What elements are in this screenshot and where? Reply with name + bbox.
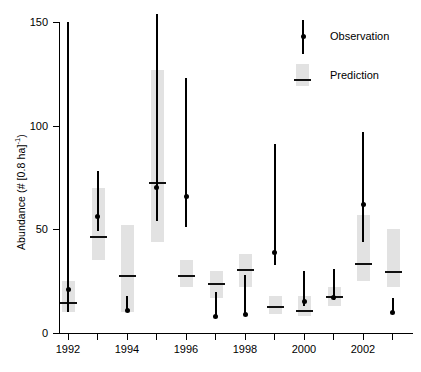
chart-legend: Observation Prediction: [280, 18, 415, 86]
observation-interval-1999: [274, 144, 276, 264]
prediction-median-1998: [237, 269, 254, 271]
prediction-box-2003: [387, 229, 400, 287]
x-tick-2000: [304, 334, 305, 340]
x-axis-line: [59, 333, 413, 334]
observation-point-1992: [66, 287, 71, 292]
y-tick-100: [53, 126, 59, 127]
x-tick-label-1992: 1992: [44, 344, 92, 355]
y-tick-50: [53, 229, 59, 230]
y-tick-label-0: 0: [18, 328, 48, 339]
observation-interval-2002: [362, 132, 364, 242]
observation-point-2000: [302, 299, 307, 304]
prediction-median-1994: [119, 275, 136, 277]
x-tick-1995: [156, 334, 157, 340]
x-tick-label-1994: 1994: [103, 344, 151, 355]
x-tick-label-2002: 2002: [339, 344, 387, 355]
y-tick-label-50: 50: [18, 224, 48, 235]
observation-point-1994: [125, 308, 130, 313]
x-tick-1994: [127, 334, 128, 340]
x-tick-1997: [215, 334, 216, 340]
x-tick-label-1998: 1998: [221, 344, 269, 355]
x-tick-1992: [68, 334, 69, 340]
observation-point-1997: [213, 314, 218, 319]
y-tick-label-100: 100: [18, 121, 48, 132]
observation-interval-1993: [97, 171, 99, 231]
x-tick-1999: [274, 334, 275, 340]
y-axis-label-tail: ): [15, 134, 27, 138]
y-axis-label-exponent: -1: [13, 138, 22, 145]
x-tick-1996: [186, 334, 187, 340]
prediction-box-1996: [180, 260, 193, 287]
observation-interval-1992: [67, 22, 69, 312]
prediction-median-2000: [296, 310, 313, 312]
y-tick-label-150: 150: [18, 17, 48, 28]
x-tick-1993: [97, 334, 98, 340]
prediction-box-1999: [269, 296, 282, 315]
legend-prediction-box-icon: [296, 64, 309, 86]
y-tick-150: [53, 22, 59, 23]
legend-observation-dot-icon: [301, 34, 306, 39]
abundance-chart: Abundance (# [0.8 ha]-1) 150 100 50 0 19…: [0, 0, 421, 372]
observation-point-2002: [361, 202, 366, 207]
observation-point-1998: [243, 312, 248, 317]
x-tick-2003: [392, 334, 393, 340]
x-tick-label-2000: 2000: [280, 344, 328, 355]
prediction-median-2003: [385, 271, 402, 273]
observation-point-1996: [184, 194, 189, 199]
x-tick-2002: [363, 334, 364, 340]
observation-point-1999: [272, 250, 277, 255]
observation-interval-1996: [185, 78, 187, 227]
observation-interval-1998: [244, 275, 246, 314]
y-axis-line: [59, 22, 60, 333]
x-tick-2001: [333, 334, 334, 340]
prediction-median-2002: [355, 263, 372, 265]
prediction-median-1999: [267, 306, 284, 308]
legend-label-prediction: Prediction: [330, 70, 379, 81]
x-tick-label-1996: 1996: [162, 344, 210, 355]
x-tick-1998: [245, 334, 246, 340]
prediction-median-1996: [178, 275, 195, 277]
legend-prediction-median-icon: [294, 79, 311, 81]
prediction-median-1993: [90, 236, 107, 238]
prediction-median-1997: [208, 283, 225, 285]
legend-label-observation: Observation: [330, 31, 389, 42]
observation-interval-1997: [215, 292, 217, 317]
observation-point-2003: [390, 310, 395, 315]
